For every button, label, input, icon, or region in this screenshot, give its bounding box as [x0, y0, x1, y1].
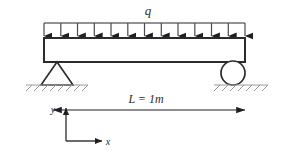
beam-body [44, 38, 245, 62]
span-dimension-label: L = 1m [127, 92, 164, 106]
load-label-q: q [145, 3, 152, 18]
axis-y-label: y [50, 104, 56, 115]
roller-support-circle [221, 61, 245, 85]
distributed-load-group: q [44, 3, 245, 36]
span-dimension-group: L = 1m [53, 92, 245, 110]
pin-support-left [26, 62, 88, 91]
pin-support-triangle [41, 62, 73, 85]
roller-support-right [214, 61, 268, 91]
load-arrows [44, 23, 245, 36]
beam-diagram-figure: q [0, 0, 286, 154]
beam-rectangle [44, 38, 245, 62]
beam-diagram-canvas: q [0, 0, 286, 154]
ground-hatch-left [26, 85, 88, 91]
axis-x-label: x [105, 136, 111, 147]
ground-hatch-right [214, 85, 268, 91]
